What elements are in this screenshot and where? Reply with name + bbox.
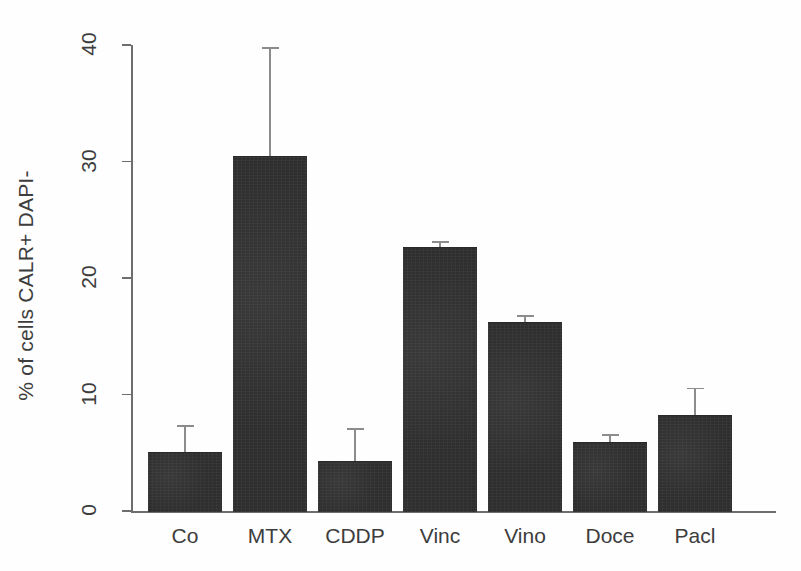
bar-doce <box>573 442 647 512</box>
error-bar-stem-pacl <box>694 388 696 416</box>
y-tick <box>122 510 131 512</box>
y-tick <box>122 44 131 46</box>
y-axis-line <box>131 45 133 511</box>
error-bar-cap-cddp <box>347 428 364 430</box>
error-bar-stem-mtx <box>269 47 271 155</box>
error-bar-cap-vino <box>517 315 534 317</box>
error-bar-cap-doce <box>602 434 619 436</box>
error-bar-cap-mtx <box>262 47 279 49</box>
y-tick-label: 20 <box>77 255 101 299</box>
y-tick-label: 0 <box>77 488 101 532</box>
bar-chart-figure: % of cells CALR+ DAPI- 010203040 CoMTXCD… <box>0 0 801 571</box>
error-bar-cap-pacl <box>687 388 704 390</box>
y-tick <box>122 161 131 163</box>
y-tick <box>122 394 131 396</box>
y-tick-label: 30 <box>77 139 101 183</box>
error-bar-stem-co <box>184 425 186 452</box>
y-tick <box>122 277 131 279</box>
y-axis-label: % of cells CALR+ DAPI- <box>0 0 52 571</box>
bar-co <box>148 452 222 512</box>
bar-mtx <box>233 156 307 512</box>
bar-vinc <box>403 247 477 512</box>
bar-pacl <box>658 415 732 512</box>
error-bar-cap-co <box>177 425 194 427</box>
error-bar-stem-cddp <box>354 428 356 461</box>
bar-cddp <box>318 461 392 512</box>
y-tick-label: 10 <box>77 372 101 416</box>
x-tick-label-pacl: Pacl <box>645 524 745 548</box>
plot-area: 010203040 CoMTXCDDPVincVinoDocePacl <box>131 45 776 511</box>
y-tick-label: 40 <box>77 22 101 66</box>
error-bar-cap-vinc <box>432 241 449 243</box>
bar-vino <box>488 322 562 512</box>
